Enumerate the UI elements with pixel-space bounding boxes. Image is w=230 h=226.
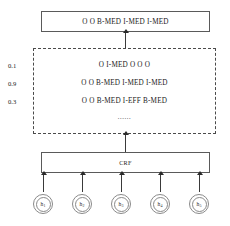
- candidate-row: 0.1 O I-MED O O O: [0, 59, 230, 71]
- arrow-hidden-state-to-crf-icon: [121, 175, 122, 192]
- hidden-state-label: h4: [158, 201, 163, 207]
- arrow-candidates-to-output-icon: [125, 33, 126, 48]
- crf-layer-box: CRF: [41, 152, 210, 173]
- arrow-hidden-state-to-crf-icon: [160, 175, 161, 192]
- output-sequence-text: O O B-MED I-MED I-MED: [82, 18, 168, 26]
- candidate-sequence-text: O O B-MED I-EFF B-MED: [33, 97, 216, 105]
- hidden-state-node: h4: [150, 194, 170, 214]
- candidate-row: 0.3 O O B-MED I-EFF B-MED: [0, 95, 230, 107]
- hidden-state-node: h5: [189, 194, 209, 214]
- candidate-sequence-text: O O B-MED I-MED I-MED: [33, 79, 216, 87]
- hidden-state-label: h1: [41, 201, 46, 207]
- hidden-state-inner-ring: h1: [36, 197, 51, 212]
- hidden-state-node: h2: [72, 194, 92, 214]
- candidate-score: 0.1: [8, 62, 32, 69]
- arrow-hidden-state-to-crf-icon: [82, 175, 83, 192]
- hidden-state-label: h3: [119, 201, 124, 207]
- candidate-row: 0.9 O O B-MED I-MED I-MED: [0, 77, 230, 89]
- crf-decoding-diagram: O O B-MED I-MED I-MED 0.1 O I-MED O O O …: [0, 0, 230, 226]
- hidden-state-inner-ring: h3: [114, 197, 129, 212]
- hidden-state-inner-ring: h2: [75, 197, 90, 212]
- arrow-hidden-state-to-crf-icon: [199, 175, 200, 192]
- hidden-state-inner-ring: h4: [153, 197, 168, 212]
- hidden-state-label: h2: [80, 201, 85, 207]
- crf-layer-label: CRF: [119, 159, 132, 166]
- hidden-state-node: h3: [111, 194, 131, 214]
- hidden-state-node: h1: [33, 194, 53, 214]
- candidate-sequence-text: O I-MED O O O: [33, 61, 216, 69]
- arrow-crf-to-candidates-icon: [125, 135, 126, 152]
- hidden-state-inner-ring: h5: [192, 197, 207, 212]
- arrow-hidden-state-to-crf-icon: [43, 175, 44, 192]
- candidate-score: 0.9: [8, 80, 32, 87]
- candidate-score: 0.3: [8, 98, 32, 105]
- hidden-state-label: h5: [197, 201, 202, 207]
- candidate-ellipsis: ......: [33, 113, 216, 120]
